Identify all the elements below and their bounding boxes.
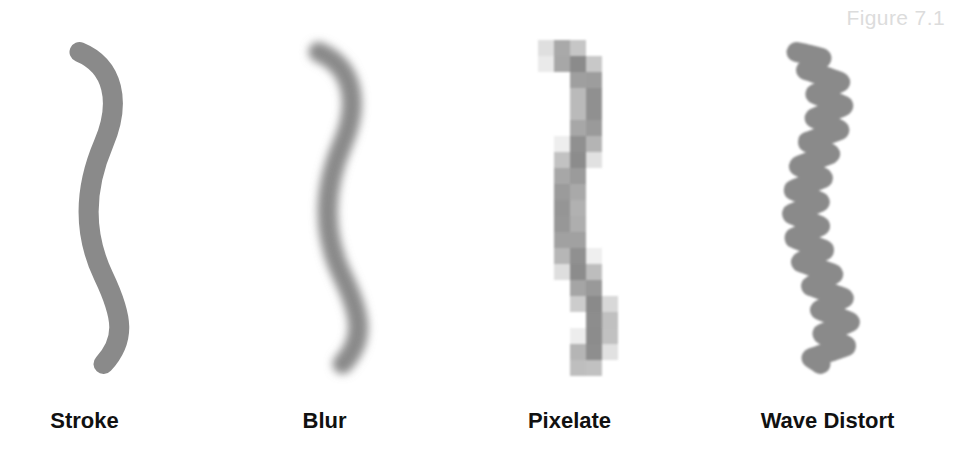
pixelate-curve-svg: [478, 40, 717, 380]
pixelate-block: [570, 248, 586, 264]
blur-curve-art: [239, 40, 478, 380]
pixelate-block: [554, 200, 570, 216]
pixelate-block: [570, 200, 586, 216]
pixelate-block: [570, 264, 586, 280]
panel-label-blur: Blur: [205, 408, 444, 434]
pixelate-block: [538, 40, 554, 56]
blur-curve-svg: [239, 40, 478, 380]
pixelate-block: [586, 104, 602, 120]
pixelate-block: [586, 136, 602, 152]
pixelate-block: [586, 72, 602, 88]
pixelate-block: [586, 296, 602, 312]
wave-curve-svg: [717, 40, 956, 380]
pixelate-block: [586, 88, 602, 104]
pixelate-curve-art: [478, 40, 717, 380]
pixelate-block: [586, 360, 602, 376]
pixelate-block: [554, 152, 570, 168]
pixelate-block: [570, 344, 586, 360]
panel-wave: [717, 40, 956, 380]
blur-curve-path: [319, 52, 359, 364]
pixelate-block: [586, 312, 602, 328]
pixelate-block: [586, 328, 602, 344]
pixelate-block: [586, 120, 602, 136]
pixelate-block: [570, 72, 586, 88]
pixelate-block: [570, 88, 586, 104]
pixelate-block: [570, 296, 586, 312]
panel-pixelate: [478, 40, 717, 380]
pixelate-block: [570, 360, 586, 376]
stroke-curve-art: [0, 40, 239, 380]
pixelate-block: [602, 344, 618, 360]
pixelate-block: [570, 40, 586, 56]
pixelate-block: [554, 232, 570, 248]
pixelate-block: [570, 232, 586, 248]
pixelate-block: [570, 56, 586, 72]
pixelate-block: [570, 216, 586, 232]
pixelate-block: [570, 136, 586, 152]
pixelate-block: [586, 264, 602, 280]
pixelate-block: [538, 56, 554, 72]
panel-label-stroke: Stroke: [0, 408, 204, 434]
panel-stroke: [0, 40, 239, 380]
pixelate-block: [586, 248, 602, 264]
pixelate-block: [586, 56, 602, 72]
pixelate-block: [570, 104, 586, 120]
pixelate-block: [554, 248, 570, 264]
figure-caption: Figure 7.1: [846, 6, 945, 30]
stroke-curve-path: [80, 52, 120, 364]
pixelate-block: [570, 184, 586, 200]
pixelate-block: [586, 152, 602, 168]
pixelate-block: [554, 216, 570, 232]
pixelate-block: [586, 344, 602, 360]
pixelate-block: [554, 136, 570, 152]
pixelate-block: [570, 328, 586, 344]
stroke-curve-svg: [0, 40, 239, 380]
panel-label-wave: Wave Distort: [708, 408, 947, 434]
figure-canvas: Figure 7.1: [0, 0, 957, 461]
pixelate-block: [554, 264, 570, 280]
pixelate-block: [570, 168, 586, 184]
pixelate-block: [570, 152, 586, 168]
pixelate-block: [554, 184, 570, 200]
pixelate-block: [570, 280, 586, 296]
pixelate-block: [602, 296, 618, 312]
pixelate-block-group: [538, 40, 618, 376]
pixelate-block: [602, 312, 618, 328]
panel-blur: [239, 40, 478, 380]
pixelate-block: [586, 280, 602, 296]
pixelate-block: [554, 168, 570, 184]
pixelate-block: [570, 120, 586, 136]
pixelate-block: [602, 328, 618, 344]
panel-label-pixelate: Pixelate: [450, 408, 689, 434]
pixelate-block: [554, 56, 570, 72]
pixelate-block: [554, 40, 570, 56]
wave-curve-art: [717, 40, 956, 380]
wave-curve-path: [792, 52, 850, 364]
